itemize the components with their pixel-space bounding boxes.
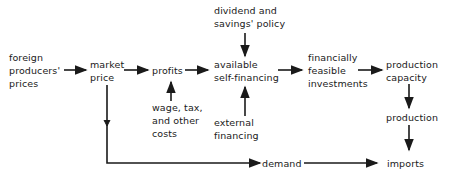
node-production: production — [386, 111, 438, 124]
node-market-price: market price — [90, 58, 124, 84]
node-dividend-policy: dividend and savings' policy — [214, 4, 285, 30]
node-imports: imports — [387, 157, 424, 170]
midline-arrowhead — [104, 120, 110, 126]
node-production-capacity: production capacity — [386, 58, 438, 84]
node-financially-feasible-investments: financially feasible investments — [308, 51, 368, 90]
node-available-self-financing: available self-financing — [214, 58, 279, 84]
node-demand: demand — [262, 157, 302, 170]
node-profits: profits — [152, 64, 183, 77]
node-wage-tax-costs: wage, tax, and other costs — [152, 101, 203, 140]
node-external-financing: external financing — [214, 116, 259, 142]
node-foreign-producers-prices: foreign producers' prices — [9, 51, 60, 90]
